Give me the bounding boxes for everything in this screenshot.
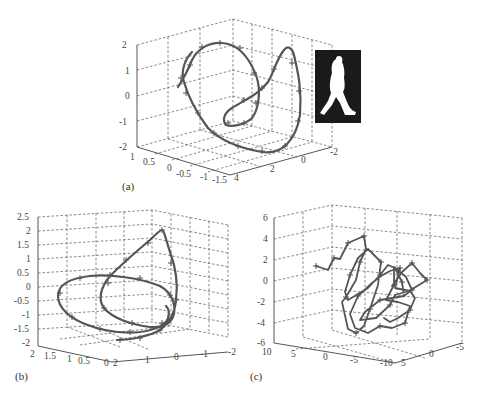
panel-b-label: (b) bbox=[15, 370, 28, 383]
panel-c-grid bbox=[274, 205, 462, 363]
panel-a-xtick: 1 bbox=[130, 152, 135, 162]
panel-b-ztick: -0.5 bbox=[14, 296, 29, 306]
panel-c: 6 4 2 0 -2 -4 -6 10 5 0 -5 -10 5 0 -5 (c… bbox=[250, 205, 464, 383]
panel-b-ytick: -2 bbox=[228, 347, 236, 357]
panel-c-xtick: -5 bbox=[350, 355, 358, 365]
panel-c-xtick: -10 bbox=[380, 358, 393, 368]
panel-b-xtick: 1 bbox=[67, 354, 72, 364]
panel-b-grid bbox=[38, 210, 228, 350]
panel-b-xtick: 2 bbox=[30, 349, 35, 359]
panel-c-xtick: 10 bbox=[262, 347, 272, 357]
panel-b-ztick: 2.5 bbox=[17, 212, 29, 222]
panel-b-ztick: 0.5 bbox=[17, 268, 29, 278]
walking-person-silhouette-icon bbox=[315, 50, 361, 123]
panel-a-xtick: -1.5 bbox=[212, 175, 227, 185]
panel-a: 2 1 0 -1 -2 1 0.5 0 -0.5 -1 -1.5 4 2 0 -… bbox=[119, 19, 361, 193]
panel-b-ytick: -1 bbox=[200, 349, 208, 359]
panel-a-ztick: -2 bbox=[119, 142, 127, 152]
panel-a-ytick: 4 bbox=[234, 173, 239, 183]
panel-a-markers bbox=[178, 40, 302, 154]
panel-a-xtick: 0 bbox=[167, 163, 172, 173]
panel-a-ztick: 1 bbox=[125, 66, 130, 76]
panel-c-floor-axes bbox=[274, 343, 462, 363]
panel-a-ytick: 2 bbox=[270, 164, 275, 174]
panel-a-ztick: 0 bbox=[125, 91, 130, 101]
panel-c-trajectory bbox=[316, 236, 415, 333]
panel-c-label: (c) bbox=[250, 370, 263, 383]
panel-c-xtick: 0 bbox=[323, 352, 328, 362]
panel-b-ztick: 0 bbox=[26, 282, 31, 292]
panel-a-label: (a) bbox=[122, 180, 135, 193]
panel-b-ytick: 1 bbox=[145, 355, 150, 365]
panel-c-ztick: 0 bbox=[263, 276, 268, 286]
panel-b-xtick: 0.5 bbox=[78, 356, 90, 366]
panel-c-ytick: -5 bbox=[456, 342, 464, 352]
panel-c-xtick: 5 bbox=[291, 349, 296, 359]
panel-c-ztick: 2 bbox=[263, 255, 268, 265]
panel-b-xtick: 0 bbox=[104, 358, 109, 368]
panel-a-ytick: 0 bbox=[301, 155, 306, 165]
panel-b-ztick: 1 bbox=[26, 254, 31, 264]
panel-b-ztick: -1.5 bbox=[14, 324, 29, 334]
panel-a-xtick: 0.5 bbox=[143, 157, 155, 167]
panel-c-ytick: 5 bbox=[401, 358, 406, 368]
panel-c-ztick: 4 bbox=[263, 234, 268, 244]
figure-canvas: 2 1 0 -1 -2 1 0.5 0 -0.5 -1 -1.5 4 2 0 -… bbox=[0, 0, 485, 395]
panel-b-ztick: 1.5 bbox=[17, 240, 29, 250]
panel-b: 2.5 2 1.5 1 0.5 0 -0.5 -1 -1.5 -2 2 1.5 … bbox=[14, 210, 236, 383]
panel-b-ztick: -2 bbox=[22, 338, 30, 348]
panel-b-ytick: 0 bbox=[174, 352, 179, 362]
panel-b-ztick: 2 bbox=[26, 226, 31, 236]
panel-b-ytick: 2 bbox=[113, 358, 118, 368]
panel-c-ztick: -4 bbox=[257, 318, 265, 328]
panel-b-ztick: -1 bbox=[22, 310, 30, 320]
panel-a-ztick: 2 bbox=[122, 40, 127, 50]
panel-a-ztick: -1 bbox=[119, 117, 127, 127]
panel-c-ztick: 6 bbox=[263, 213, 268, 223]
panel-a-xtick: -1 bbox=[200, 172, 208, 182]
panel-c-ztick: -2 bbox=[257, 297, 265, 307]
panel-a-grid bbox=[137, 19, 332, 172]
panel-c-ytick: 0 bbox=[429, 349, 434, 359]
panel-b-xtick: 1.5 bbox=[44, 351, 56, 361]
panel-a-xtick: -0.5 bbox=[176, 169, 191, 179]
panel-a-ytick: -2 bbox=[330, 147, 338, 157]
